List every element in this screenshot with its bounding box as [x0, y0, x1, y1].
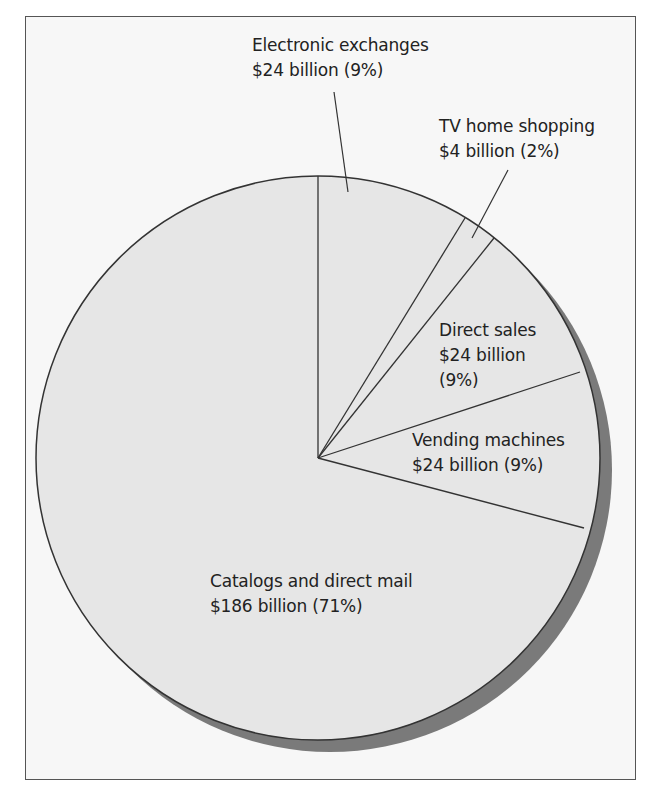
label-catalogs-direct-mail: Catalogs and direct mail $186 billion (7…	[210, 569, 413, 619]
slice-label: Catalogs and direct mail	[210, 569, 413, 594]
label-vending-machines: Vending machines $24 billion (9%)	[412, 428, 565, 478]
slice-percent: (9%)	[439, 368, 536, 393]
slice-label: Vending machines	[412, 428, 565, 453]
label-tv-home-shopping: TV home shopping $4 billion (2%)	[439, 114, 595, 164]
slice-value: $24 billion (9%)	[412, 453, 565, 478]
label-electronic-exchanges: Electronic exchanges $24 billion (9%)	[252, 33, 429, 83]
slice-label: TV home shopping	[439, 114, 595, 139]
slice-value: $24 billion	[439, 343, 536, 368]
slice-label: Electronic exchanges	[252, 33, 429, 58]
slice-label: Direct sales	[439, 318, 536, 343]
label-direct-sales: Direct sales $24 billion (9%)	[439, 318, 536, 393]
slice-value: $186 billion (71%)	[210, 594, 413, 619]
slice-value: $24 billion (9%)	[252, 58, 429, 83]
slice-value: $4 billion (2%)	[439, 139, 595, 164]
